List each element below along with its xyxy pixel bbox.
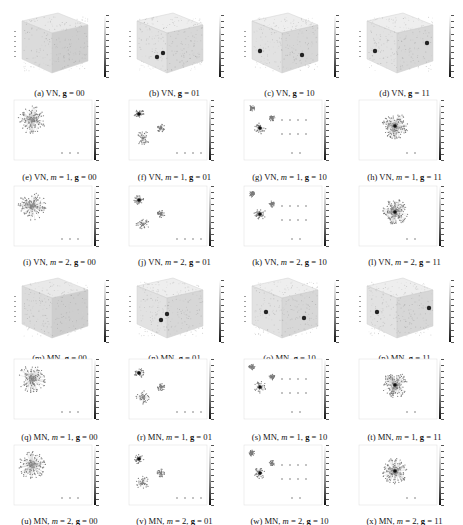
subfigure-o: (o) MN, g = 10 bbox=[232, 270, 347, 363]
subfigure-caption: (a) VN, g = 00 bbox=[2, 88, 117, 98]
colorbar-ticks bbox=[451, 280, 455, 342]
subfigure-caption: (v) MN, m = 2, g = 01 bbox=[117, 516, 232, 525]
colorbar-ticks bbox=[221, 15, 225, 77]
caption-label: (t) MN, m = 1, g = 11 bbox=[367, 432, 441, 442]
colorbar-ticks bbox=[211, 445, 215, 505]
subfigure-n: (n) MN, g = 01 bbox=[117, 270, 232, 363]
subfigure-caption: (s) MN, m = 1, g = 10 bbox=[232, 432, 347, 442]
subfigure-caption: (l) VN, m = 2, g = 11 bbox=[347, 257, 462, 267]
subfigure-h: (h) VN, m = 1, g = 11 bbox=[347, 98, 462, 182]
subfigure-q: (q) MN, m = 1, g = 00 bbox=[2, 357, 117, 442]
volume-plot bbox=[347, 270, 462, 350]
subfigure-caption: (e) VN, m = 1, g = 00 bbox=[2, 172, 117, 182]
volume-plot bbox=[117, 270, 232, 350]
subfigure-caption: (k) VN, m = 2, g = 10 bbox=[232, 257, 347, 267]
colorbar-ticks bbox=[326, 359, 330, 419]
caption-label: (s) MN, m = 1, g = 10 bbox=[252, 432, 327, 442]
caption-label: (j) VN, m = 2, g = 01 bbox=[138, 257, 211, 267]
subfigure-l: (l) VN, m = 2, g = 11 bbox=[347, 184, 462, 267]
caption-label: (k) VN, m = 2, g = 10 bbox=[252, 257, 327, 267]
volume-plot bbox=[347, 5, 462, 85]
caption-label: (h) VN, m = 1, g = 11 bbox=[367, 172, 441, 182]
subfigure-t: (t) MN, m = 1, g = 11 bbox=[347, 357, 462, 442]
volume-plot bbox=[2, 270, 117, 350]
subfigure-k: (k) VN, m = 2, g = 10 bbox=[232, 184, 347, 267]
colorbar-ticks bbox=[326, 100, 330, 160]
subfigure-caption: (r) MN, m = 1, g = 01 bbox=[117, 432, 232, 442]
subfigure-u: (u) MN, m = 2, g = 00 bbox=[2, 443, 117, 525]
subfigure-j: (j) VN, m = 2, g = 01 bbox=[117, 184, 232, 267]
caption-label: (u) MN, m = 2, g = 00 bbox=[21, 516, 97, 525]
colorbar-ticks bbox=[441, 100, 445, 160]
subfigure-caption: (i) VN, m = 2, g = 00 bbox=[2, 257, 117, 267]
caption-label: (r) MN, m = 1, g = 01 bbox=[137, 432, 212, 442]
subfigure-e: (e) VN, m = 1, g = 00 bbox=[2, 98, 117, 182]
subfigure-p: (p) MN, g = 11 bbox=[347, 270, 462, 363]
subfigure-caption: (u) MN, m = 2, g = 00 bbox=[2, 516, 117, 525]
subfigure-r: (r) MN, m = 1, g = 01 bbox=[117, 357, 232, 442]
subfigure-a: (a) VN, g = 00 bbox=[2, 5, 117, 98]
subfigure-caption: (f) VN, m = 1, g = 01 bbox=[117, 172, 232, 182]
caption-label: (f) VN, m = 1, g = 01 bbox=[138, 172, 211, 182]
caption-label: (x) MN, m = 2, g = 11 bbox=[366, 516, 442, 525]
colorbar-ticks bbox=[96, 359, 100, 419]
caption-label: (c) VN, g = 10 bbox=[264, 88, 314, 98]
volume-plot bbox=[232, 5, 347, 85]
colorbar-ticks bbox=[106, 15, 110, 77]
colorbar-ticks bbox=[326, 186, 330, 246]
colorbar-ticks bbox=[451, 15, 455, 77]
volume-plot bbox=[117, 5, 232, 85]
subfigure-caption: (t) MN, m = 1, g = 11 bbox=[347, 432, 462, 442]
caption-label: (l) VN, m = 2, g = 11 bbox=[368, 257, 441, 267]
subfigure-caption: (d) VN, g = 11 bbox=[347, 88, 462, 98]
colorbar-ticks bbox=[336, 15, 340, 77]
colorbar-ticks bbox=[336, 280, 340, 342]
subfigure-w: (w) MN, m = 2, g = 10 bbox=[232, 443, 347, 525]
figure-grid: (a) VN, g = 00(b) VN, g = 01(c) VN, g = … bbox=[0, 0, 463, 525]
subfigure-m: (m) MN, g = 00 bbox=[2, 270, 117, 363]
colorbar-ticks bbox=[221, 280, 225, 342]
subfigure-c: (c) VN, g = 10 bbox=[232, 5, 347, 98]
volume-plot bbox=[232, 270, 347, 350]
caption-label: (b) VN, g = 01 bbox=[149, 88, 200, 98]
subfigure-f: (f) VN, m = 1, g = 01 bbox=[117, 98, 232, 182]
caption-label: (a) VN, g = 00 bbox=[34, 88, 84, 98]
caption-label: (q) MN, m = 1, g = 00 bbox=[21, 432, 97, 442]
caption-label: (i) VN, m = 2, g = 00 bbox=[23, 257, 96, 267]
subfigure-g: (g) VN, m = 1, g = 10 bbox=[232, 98, 347, 182]
caption-label: (e) VN, m = 1, g = 00 bbox=[22, 172, 96, 182]
colorbar-ticks bbox=[441, 445, 445, 505]
subfigure-caption: (x) MN, m = 2, g = 11 bbox=[347, 516, 462, 525]
colorbar-ticks bbox=[96, 100, 100, 160]
caption-label: (g) VN, m = 1, g = 10 bbox=[252, 172, 327, 182]
colorbar-ticks bbox=[106, 280, 110, 342]
subfigure-caption: (c) VN, g = 10 bbox=[232, 88, 347, 98]
subfigure-x: (x) MN, m = 2, g = 11 bbox=[347, 443, 462, 525]
colorbar-ticks bbox=[96, 445, 100, 505]
colorbar-ticks bbox=[211, 100, 215, 160]
subfigure-caption: (w) MN, m = 2, g = 10 bbox=[232, 516, 347, 525]
subfigure-caption: (j) VN, m = 2, g = 01 bbox=[117, 257, 232, 267]
subfigure-caption: (q) MN, m = 1, g = 00 bbox=[2, 432, 117, 442]
caption-label: (w) MN, m = 2, g = 10 bbox=[250, 516, 328, 525]
subfigure-i: (i) VN, m = 2, g = 00 bbox=[2, 184, 117, 267]
colorbar-ticks bbox=[326, 445, 330, 505]
subfigure-b: (b) VN, g = 01 bbox=[117, 5, 232, 98]
subfigure-caption: (h) VN, m = 1, g = 11 bbox=[347, 172, 462, 182]
caption-label: (v) MN, m = 2, g = 01 bbox=[136, 516, 212, 525]
colorbar-ticks bbox=[441, 359, 445, 419]
subfigure-v: (v) MN, m = 2, g = 01 bbox=[117, 443, 232, 525]
subfigure-s: (s) MN, m = 1, g = 10 bbox=[232, 357, 347, 442]
colorbar-ticks bbox=[96, 186, 100, 246]
subfigure-caption: (g) VN, m = 1, g = 10 bbox=[232, 172, 347, 182]
subfigure-d: (d) VN, g = 11 bbox=[347, 5, 462, 98]
subfigure-caption: (b) VN, g = 01 bbox=[117, 88, 232, 98]
volume-plot bbox=[2, 5, 117, 85]
colorbar-ticks bbox=[211, 186, 215, 246]
caption-label: (d) VN, g = 11 bbox=[379, 88, 429, 98]
colorbar-ticks bbox=[211, 359, 215, 419]
colorbar-ticks bbox=[441, 186, 445, 246]
